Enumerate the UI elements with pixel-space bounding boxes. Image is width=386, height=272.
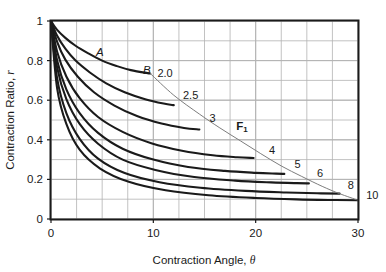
curve-label-8: 8 — [348, 179, 354, 191]
y-tick-label: 0 — [37, 213, 43, 225]
x-tick-label: 0 — [48, 227, 54, 239]
y-tick-label: 0.6 — [27, 94, 43, 106]
annotation-b: B — [143, 64, 151, 76]
y-tick-label: 0.2 — [27, 173, 43, 185]
x-axis-title: Contraction Angle, θ — [153, 254, 256, 266]
x-tick-label: 30 — [352, 227, 365, 239]
curve-label-2.5: 2.5 — [183, 89, 198, 101]
x-tick-label: 10 — [147, 227, 160, 239]
annotation-a: A — [95, 46, 104, 58]
curve-label-5: 5 — [295, 158, 301, 170]
y-axis-title: Contraction Ratio, r — [4, 70, 16, 170]
y-tick-label: 0.4 — [27, 134, 44, 146]
x-tick-label: 20 — [249, 227, 262, 239]
curve-label-2.0: 2.0 — [157, 67, 172, 79]
curve-label-10: 10 — [366, 189, 378, 201]
y-tick-label: 1 — [37, 15, 43, 27]
curve-label-3: 3 — [210, 112, 216, 124]
curve-label-6: 6 — [317, 167, 323, 179]
curve-label-4: 4 — [269, 144, 275, 156]
y-tick-label: 0.8 — [27, 55, 43, 67]
contraction-ratio-chart: 0102030 00.20.40.60.81 2.02.53456810 ABF… — [0, 0, 386, 272]
chart-figure: 0102030 00.20.40.60.81 2.02.53456810 ABF… — [0, 0, 386, 272]
